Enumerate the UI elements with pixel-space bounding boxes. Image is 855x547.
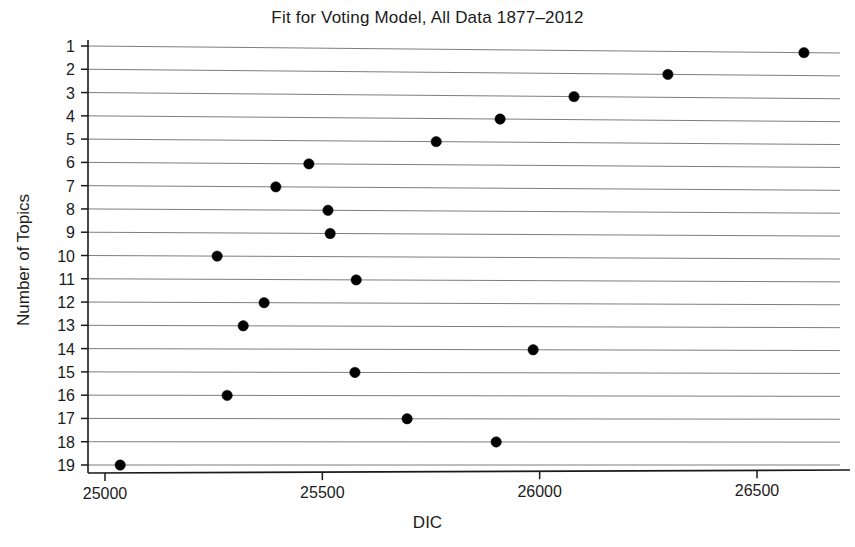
y-tick-label-10: 10 (57, 248, 75, 265)
gridline-row-6 (88, 162, 840, 167)
gridline-row-4 (88, 116, 840, 122)
scatter-plot-canvas: 25000255002600026500 1234567891011121314… (0, 0, 855, 547)
y-tick-label-9: 9 (66, 224, 75, 241)
chart-figure: Fit for Voting Model, All Data 1877–2012… (0, 0, 855, 547)
gridline-row-17 (88, 418, 840, 419)
gridline-row-16 (88, 395, 840, 396)
y-tick-label-14: 14 (57, 341, 75, 358)
gridline-row-7 (88, 186, 840, 191)
gridline-row-15 (88, 372, 840, 374)
y-tick-label-8: 8 (66, 201, 75, 218)
data-point-topics-14 (528, 345, 538, 355)
gridline-row-14 (88, 349, 840, 351)
y-tick-label-17: 17 (57, 410, 75, 427)
y-tick-label-2: 2 (66, 61, 75, 78)
y-tick-label-7: 7 (66, 178, 75, 195)
gridline-row-2 (88, 69, 840, 76)
data-point-topics-19 (115, 460, 125, 470)
data-point-topics-1 (799, 47, 809, 57)
x-tick-label-26500: 26500 (735, 482, 780, 499)
data-point-topics-16 (222, 390, 232, 400)
gridline-row-12 (88, 302, 840, 305)
y-axis-label: Number of Topics (14, 140, 34, 380)
x-tick-label-25500: 25500 (300, 484, 345, 501)
data-points-group (115, 47, 809, 470)
gridline-row-5 (88, 139, 840, 144)
y-tick-label-18: 18 (57, 434, 75, 451)
gridline-row-9 (88, 232, 840, 236)
data-point-topics-9 (325, 228, 335, 238)
y-tick-label-5: 5 (66, 131, 75, 148)
y-tick-label-15: 15 (57, 364, 75, 381)
gridline-row-3 (88, 93, 840, 99)
y-tick-label-1: 1 (66, 38, 75, 55)
y-tick-label-11: 11 (58, 271, 75, 288)
gridline-row-1 (88, 46, 840, 53)
gridline-row-10 (88, 256, 840, 260)
gridline-row-8 (88, 209, 840, 213)
x-tick-label-26000: 26000 (517, 483, 562, 500)
gridline-row-13 (88, 325, 840, 327)
y-axis-ticks-group: 12345678910111213141516171819 (57, 38, 88, 474)
data-point-topics-6 (304, 159, 314, 169)
data-point-topics-4 (495, 114, 505, 124)
x-axis-spine (88, 470, 850, 473)
x-axis-ticks-group: 25000255002600026500 (83, 470, 780, 502)
data-point-topics-7 (271, 182, 281, 192)
axes-group (88, 40, 850, 473)
y-tick-label-19: 19 (57, 457, 75, 474)
gridline-row-11 (88, 279, 840, 282)
y-tick-label-12: 12 (57, 294, 75, 311)
y-tick-label-16: 16 (57, 387, 75, 404)
data-point-topics-18 (491, 437, 501, 447)
gridlines-group (88, 46, 840, 465)
x-axis-label: DIC (0, 513, 855, 533)
data-point-topics-15 (350, 367, 360, 377)
data-point-topics-8 (323, 205, 333, 215)
data-point-topics-10 (212, 251, 222, 261)
data-point-topics-3 (569, 91, 579, 101)
data-point-topics-2 (663, 69, 673, 79)
data-point-topics-17 (402, 414, 412, 424)
x-tick-label-25000: 25000 (83, 485, 128, 502)
y-tick-label-4: 4 (66, 108, 75, 125)
data-point-topics-13 (238, 321, 248, 331)
data-point-topics-5 (431, 136, 441, 146)
y-tick-label-6: 6 (66, 154, 75, 171)
data-point-topics-12 (259, 297, 269, 307)
y-tick-label-3: 3 (66, 85, 75, 102)
data-point-topics-11 (351, 275, 361, 285)
y-tick-label-13: 13 (57, 317, 75, 334)
